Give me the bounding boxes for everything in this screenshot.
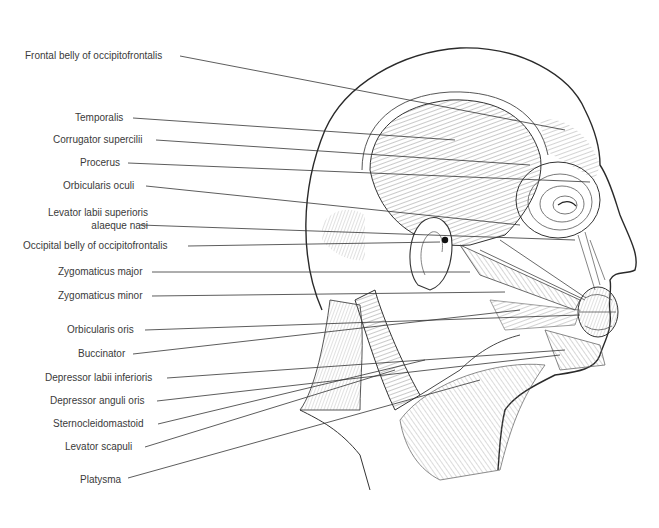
label-procerus: Procerus (80, 157, 120, 169)
levator-scapuli-muscle (300, 300, 362, 410)
label-sternocleidomastoid: Sternocleidomastoid (53, 418, 144, 430)
label-orbicularis-oris: Orbicularis oris (67, 324, 134, 336)
label-levator-scapuli: Levator scapuli (65, 441, 132, 453)
label-zygomaticus-minor: Zygomaticus minor (58, 290, 142, 302)
leader-line-occipital-belly (188, 242, 440, 246)
leader-line-frontal-belly (180, 56, 565, 130)
temporalis-muscle (370, 100, 541, 246)
label-platysma: Platysma (80, 474, 121, 486)
label-depressor-labii: Depressor labii inferioris (45, 372, 152, 384)
label-frontal-belly: Frontal belly of occipitofrontalis (25, 50, 162, 62)
leader-line-zygomaticus-minor (152, 292, 505, 296)
label-zygomaticus-major: Zygomaticus major (58, 266, 142, 278)
platysma-muscle (400, 364, 545, 480)
label-levator-labii: Levator labii superiorisalaeque nasi (48, 206, 148, 232)
diagram-canvas: Frontal belly of occipitofrontalisTempor… (0, 0, 659, 528)
frontalis-muscle (540, 119, 600, 180)
label-orbicularis-oculi: Orbicularis oculi (63, 180, 134, 192)
sternocleidomastoid-muscle (355, 290, 420, 410)
label-depressor-anguli: Depressor anguli oris (50, 395, 145, 407)
occipital-muscle (322, 210, 365, 260)
external-auditory-meatus (442, 237, 448, 243)
label-temporalis: Temporalis (75, 112, 123, 124)
label-corrugator: Corrugator supercilii (53, 134, 142, 146)
label-buccinator: Buccinator (78, 348, 125, 360)
label-occipital-belly: Occipital belly of occipitofrontalis (23, 240, 168, 252)
leader-lines (128, 56, 590, 478)
zygomaticus-muscles (460, 245, 580, 310)
